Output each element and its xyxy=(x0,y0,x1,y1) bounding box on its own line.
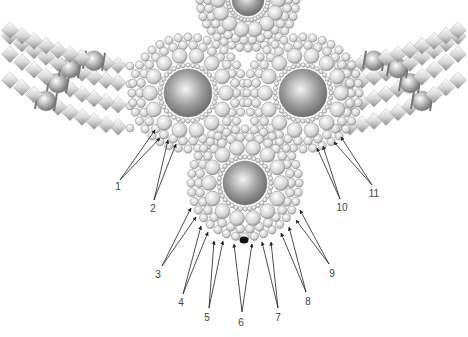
callout-label-5: 5 xyxy=(204,312,210,323)
callout-label-3: 3 xyxy=(155,269,161,280)
diagram-canvas xyxy=(0,0,468,337)
highlight-bead xyxy=(240,237,249,244)
callout-label-9: 9 xyxy=(329,268,335,279)
callout-label-6: 6 xyxy=(238,317,244,328)
callout-label-1: 1 xyxy=(115,181,121,192)
callout-label-8: 8 xyxy=(305,296,311,307)
beadwork-diagram: 1234567891011 xyxy=(0,0,468,337)
callout-label-2: 2 xyxy=(150,203,156,214)
callout-label-4: 4 xyxy=(178,297,184,308)
callout-label-7: 7 xyxy=(275,312,281,323)
callout-label-11: 11 xyxy=(369,188,379,199)
bead-rosettes xyxy=(128,0,363,241)
callout-label-10: 10 xyxy=(336,202,347,213)
